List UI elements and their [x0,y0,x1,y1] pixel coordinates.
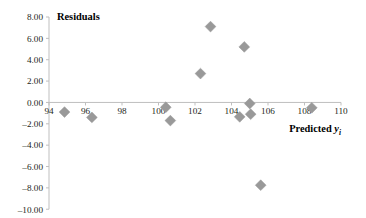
y-tick-labels: 8.006.004.002.000.00–2.00–4.00–6.00–8.00… [17,12,44,214]
y-tick-label: –6.00 [21,162,43,172]
plot-canvas: 8.006.004.002.000.00–2.00–4.00–6.00–8.00… [0,0,366,218]
y-tick-label: –8.00 [21,183,43,193]
data-point-marker [239,42,250,53]
y-tick-label: 2.00 [27,76,43,86]
y-tick-label: 6.00 [27,34,43,44]
x-tick-label: 94 [44,106,54,116]
data-point-marker [205,21,216,32]
y-tick-label: 0.00 [27,98,43,108]
y-tick-label: –4.00 [21,140,43,150]
x-tick-label: 98 [117,106,127,116]
y-tick-label: 4.00 [27,55,43,65]
y-tick-label: 8.00 [27,12,43,22]
x-tick-label: 102 [188,106,202,116]
x-tick-label: 106 [261,106,275,116]
y-axis-title: Residuals [57,11,100,22]
residual-plot-chart: 8.006.004.002.000.00–2.00–4.00–6.00–8.00… [0,0,366,218]
data-point-marker [59,107,70,118]
y-tick-label: –2.00 [21,119,43,129]
x-tick-label: 110 [334,106,348,116]
data-point-marker [244,98,255,109]
x-axis-title: Predicted yi [289,123,342,137]
data-point-marker [165,115,176,126]
x-tick-label: 96 [81,106,91,116]
data-point-marker [195,68,206,79]
data-point-marker [245,109,256,120]
y-tick-label: –10.00 [17,205,44,215]
data-point-marker [255,180,266,191]
